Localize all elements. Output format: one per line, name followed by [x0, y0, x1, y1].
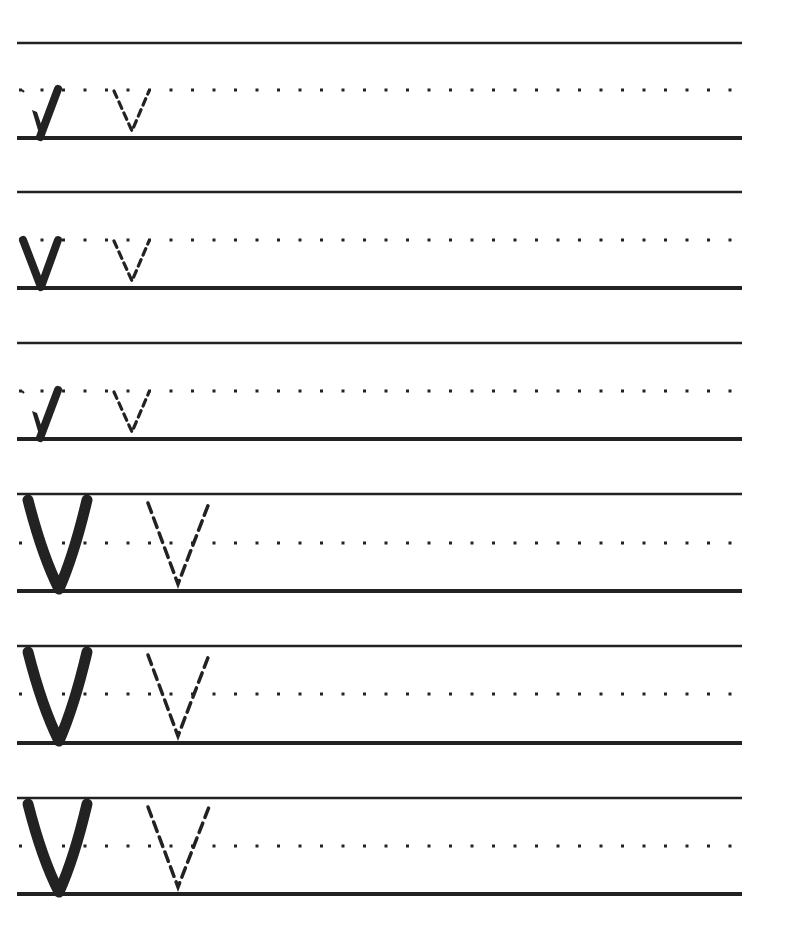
- trace-letter-V: [148, 807, 209, 887]
- handwriting-worksheet: [0, 0, 785, 942]
- practice-row-graphic: [0, 0, 785, 942]
- model-letter-V: [28, 804, 87, 892]
